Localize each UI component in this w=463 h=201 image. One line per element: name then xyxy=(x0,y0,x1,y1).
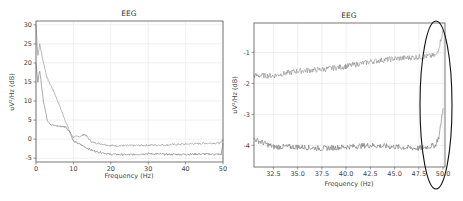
left-y-ticks: -5051015202530 xyxy=(24,21,36,162)
y-tick-label: 10 xyxy=(24,97,32,105)
y-tick-label: 15 xyxy=(24,78,32,86)
left-psd-lines xyxy=(36,25,223,156)
x-tick-label: 50 xyxy=(219,165,227,173)
right-chart-title: EEG xyxy=(341,11,356,20)
left-gridlines xyxy=(36,21,223,162)
x-tick-label: 40 xyxy=(181,165,189,173)
y-tick-label: -4 xyxy=(244,142,250,150)
left-psd-panel: EEG 01020304050 -5051015202530 Frequency… xyxy=(8,9,227,180)
right-psd-panel: EEG 32.535.037.540.042.545.047.550.0 -1-… xyxy=(231,11,452,189)
y-tick-label: -5 xyxy=(26,154,32,162)
left-axes-frame xyxy=(36,21,223,162)
x-tick-label: 50.0 xyxy=(436,170,450,178)
eeg-psd-figure: EEG 01020304050 -5051015202530 Frequency… xyxy=(0,0,463,201)
y-tick-label: -1 xyxy=(244,49,250,57)
y-tick-label: 25 xyxy=(24,40,32,48)
psd-line xyxy=(36,25,223,147)
right-y-ticks: -1-2-3-4 xyxy=(244,49,254,150)
left-x-axis-label: Frequency (Hz) xyxy=(104,172,153,180)
x-tick-label: 35.0 xyxy=(290,170,304,178)
x-tick-label: 32.5 xyxy=(266,170,280,178)
x-tick-label: 45.0 xyxy=(387,170,401,178)
y-tick-label: 0 xyxy=(28,135,32,143)
x-tick-label: 0 xyxy=(34,165,38,173)
psd-line xyxy=(254,31,443,79)
right-psd-lines xyxy=(254,31,443,151)
highlight-ellipse xyxy=(420,21,452,189)
left-chart-title: EEG xyxy=(121,9,136,18)
y-tick-label: -3 xyxy=(244,111,250,119)
x-tick-label: 10 xyxy=(69,165,77,173)
y-tick-label: 20 xyxy=(24,59,32,67)
x-tick-label: 47.5 xyxy=(412,170,426,178)
left-y-axis-label: uV²/Hz (dB) xyxy=(8,73,16,110)
right-x-ticks: 32.535.037.540.042.545.047.550.0 xyxy=(266,167,450,178)
y-tick-label: 5 xyxy=(28,116,32,124)
right-x-axis-label: Frequency (Hz) xyxy=(324,180,373,188)
x-tick-label: 37.5 xyxy=(315,170,329,178)
y-tick-label: 30 xyxy=(24,21,32,29)
y-tick-label: -2 xyxy=(244,80,250,88)
x-tick-label: 42.5 xyxy=(363,170,377,178)
psd-line xyxy=(36,63,223,155)
right-y-axis-label: uV²/Hz (dB) xyxy=(231,76,239,113)
right-gridlines xyxy=(254,23,445,167)
x-tick-label: 40.0 xyxy=(339,170,353,178)
